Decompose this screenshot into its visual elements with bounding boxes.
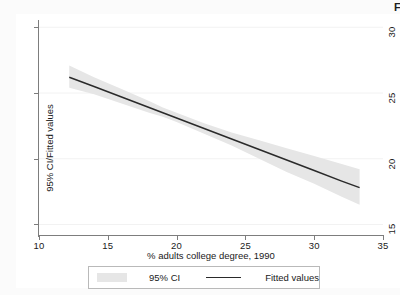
x-axis-line — [38, 235, 384, 236]
chart-svg — [39, 22, 383, 235]
y-tick-label: 15 — [387, 224, 398, 235]
legend-label-ci: 95% CI — [149, 272, 180, 283]
y-tick — [34, 93, 39, 94]
plot-area — [39, 22, 383, 235]
y-tick-label: 30 — [387, 27, 398, 38]
chart-legend: 95% CI Fitted values — [88, 266, 320, 289]
legend-line-fitted — [206, 277, 241, 278]
y-tick-label: 20 — [387, 158, 398, 169]
y-tick-label: 25 — [387, 93, 398, 104]
y-tick — [34, 27, 39, 28]
y-tick — [34, 224, 39, 225]
scan-edge-left — [0, 0, 16, 295]
scan-edge-top — [0, 0, 400, 14]
x-axis-title: % adults college degree, 1990 — [39, 250, 383, 261]
page-corner-glyph: F — [394, 1, 400, 13]
legend-swatch-ci — [97, 273, 127, 282]
figure-canvas: F 15202530 101520253035 95% CI/Fitted va… — [0, 0, 400, 295]
y-tick — [34, 159, 39, 160]
confidence-interval-band — [69, 65, 359, 204]
scan-edge-bottom — [0, 288, 400, 295]
fitted-values-line — [69, 77, 359, 187]
y-axis-title: 95% CI/Fitted values — [44, 104, 55, 192]
legend-label-fitted: Fitted values — [265, 272, 319, 283]
